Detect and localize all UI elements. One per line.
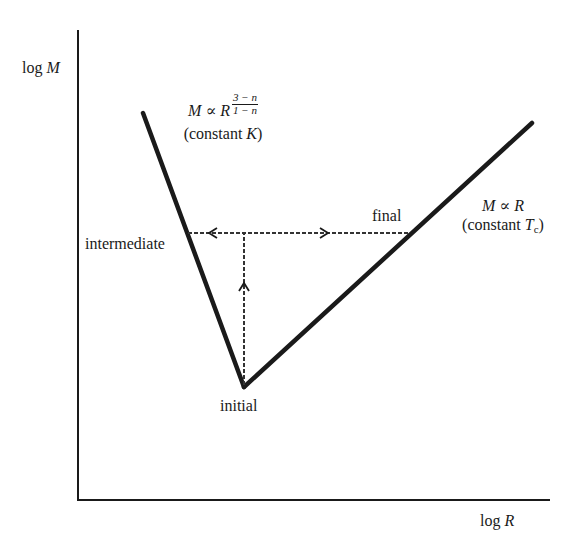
relation-lhs: M bbox=[188, 102, 201, 119]
relation-rhs: R bbox=[514, 197, 524, 214]
x-axis-label-prefix: log bbox=[480, 512, 500, 529]
condition-suffix: ) bbox=[539, 216, 544, 233]
proportional-symbol: ∝ bbox=[499, 197, 510, 214]
y-axis-label: log M bbox=[22, 60, 60, 76]
relation-rhs: R bbox=[220, 102, 230, 119]
constant-tc-relation: M ∝ R bbox=[443, 198, 563, 214]
constant-tc-condition: (constant Tc) bbox=[443, 217, 563, 235]
exponent-numerator: 3 − n bbox=[232, 92, 258, 105]
condition-var: T bbox=[525, 216, 534, 233]
condition-var: K bbox=[246, 125, 257, 142]
constant-k-condition: (constant K) bbox=[168, 126, 278, 142]
x-axis-label: log R bbox=[480, 513, 514, 529]
x-axis-label-var: R bbox=[504, 512, 514, 529]
condition-suffix: ) bbox=[257, 125, 262, 142]
condition-prefix: (constant bbox=[462, 216, 525, 233]
constant-tc-line bbox=[244, 123, 532, 387]
constant-tc-annotation: M ∝ R (constant Tc) bbox=[443, 198, 563, 235]
intermediate-label: intermediate bbox=[85, 236, 165, 252]
proportional-symbol: ∝ bbox=[205, 102, 216, 119]
final-label: final bbox=[372, 208, 401, 224]
constant-k-annotation: M ∝ R3 − n1 − n (constant K) bbox=[168, 100, 278, 142]
condition-prefix: (constant bbox=[184, 125, 247, 142]
exponent-fraction: 3 − n1 − n bbox=[232, 92, 258, 116]
diagram-canvas bbox=[0, 0, 581, 553]
y-axis-label-prefix: log bbox=[22, 59, 42, 76]
exponent-denominator: 1 − n bbox=[232, 105, 258, 117]
relation-lhs: M bbox=[482, 197, 495, 214]
initial-label: initial bbox=[220, 398, 257, 414]
y-axis-label-var: M bbox=[46, 59, 59, 76]
